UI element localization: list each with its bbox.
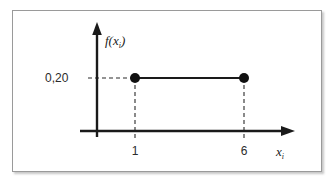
y-tick-label-020: 0,20	[45, 71, 69, 85]
uniform-distribution-chart: f(xi) xi 0,20 1 6	[0, 0, 336, 183]
x-tick-label-1: 1	[132, 144, 139, 158]
figure-root: f(xi) xi 0,20 1 6	[0, 0, 336, 183]
x-tick-label-6: 6	[241, 144, 248, 158]
x-axis-title: xi	[275, 144, 284, 161]
y-axis-arrow-icon	[92, 22, 102, 35]
data-point-marker	[239, 73, 249, 83]
x-axis-arrow-icon	[281, 126, 295, 136]
data-point-marker	[130, 73, 140, 83]
y-axis-title-close: )	[120, 33, 125, 48]
x-axis-title-subscript: i	[282, 152, 284, 161]
y-axis-title: f(xi)	[105, 33, 125, 50]
y-axis-title-main: f(x	[105, 33, 119, 48]
